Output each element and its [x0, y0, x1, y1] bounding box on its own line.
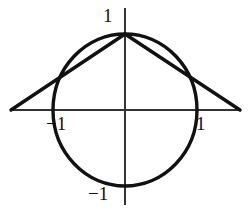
x-axis-tick-label-negative-one: −1 — [46, 114, 66, 133]
y-axis-tick-label-positive-one: 1 — [103, 6, 113, 25]
math-figure: 1 −1 −1 1 — [0, 0, 250, 214]
right-tangent-line — [125, 34, 240, 110]
y-axis-tick-label-negative-one: −1 — [88, 184, 108, 203]
figure-canvas — [0, 0, 250, 214]
x-axis-tick-label-positive-one: 1 — [196, 114, 206, 133]
left-tangent-line — [11, 34, 125, 110]
